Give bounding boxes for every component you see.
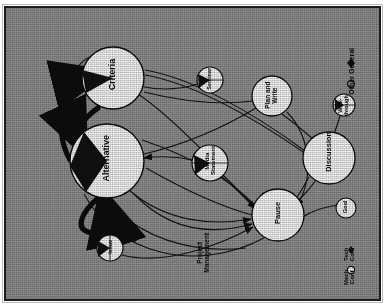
node-discussion[interactable] — [303, 132, 355, 184]
node-alternative[interactable] — [70, 124, 144, 198]
edge-media-criteria — [138, 94, 201, 149]
edge-planwrite-criteria — [144, 92, 253, 103]
edge-alternative-pause-b — [134, 194, 252, 230]
node-goal[interactable] — [336, 198, 356, 218]
figure-root: Unsupported Criteria Alternative Issue M… — [0, 0, 385, 307]
node-pause[interactable] — [252, 189, 304, 241]
node-walkthrough[interactable] — [333, 94, 355, 116]
node-criteria[interactable] — [82, 47, 144, 109]
filled-diamond-icon — [347, 58, 355, 68]
edge-alternative-self-loop — [81, 198, 104, 233]
edge-issue-pause — [122, 227, 253, 258]
node-seminar[interactable] — [197, 67, 223, 93]
filled-diamond-icon-2 — [348, 246, 354, 254]
edge-issue-alternative-thick — [107, 201, 112, 234]
node-plan-and-write[interactable] — [252, 76, 292, 116]
graph-canvas — [6, 8, 383, 303]
node-media-statement[interactable] — [192, 145, 228, 181]
open-circle-icon — [348, 81, 355, 88]
edge-goal-pause — [303, 205, 338, 217]
scanned-page-frame: Unsupported Criteria Alternative Issue M… — [4, 6, 381, 301]
node-issue[interactable] — [97, 235, 123, 261]
edge-pause-media-back — [220, 172, 256, 208]
open-circle-icon-2 — [347, 266, 354, 273]
